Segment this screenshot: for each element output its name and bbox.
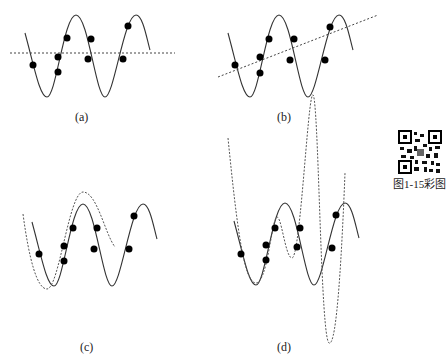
panel-d-label: (d): [277, 340, 291, 355]
qr-code[interactable]: [398, 130, 442, 174]
figure-canvas: [0, 0, 447, 364]
panel-b-label: (b): [277, 110, 291, 125]
panel-d: [228, 95, 359, 343]
panel-b: [218, 15, 378, 97]
panel-c-label: (c): [80, 340, 93, 355]
qr-caption: 图1-15彩图: [393, 175, 446, 191]
panel-c: [23, 192, 157, 289]
panel-a-label: (a): [75, 110, 88, 125]
panel-a: [10, 15, 175, 97]
